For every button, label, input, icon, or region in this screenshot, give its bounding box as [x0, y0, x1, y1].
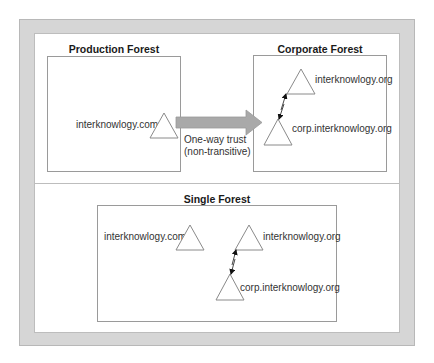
- domain-tree-icon-corp-org: [287, 69, 315, 94]
- domain-tree-icon-single-corp: [216, 274, 244, 300]
- one-way-trust-arrow: [176, 110, 262, 135]
- domain-tree-icon-corp-child: [264, 119, 292, 145]
- domain-tree-icon-single-com: [176, 225, 204, 250]
- two-way-trust-line-corp-reverse: [279, 104, 284, 119]
- domain-tree-icon-production: [150, 113, 178, 138]
- two-way-trust-line-corp: [281, 94, 286, 110]
- diagram-shapes: [0, 0, 434, 363]
- domain-tree-icon-single-org: [235, 225, 263, 250]
